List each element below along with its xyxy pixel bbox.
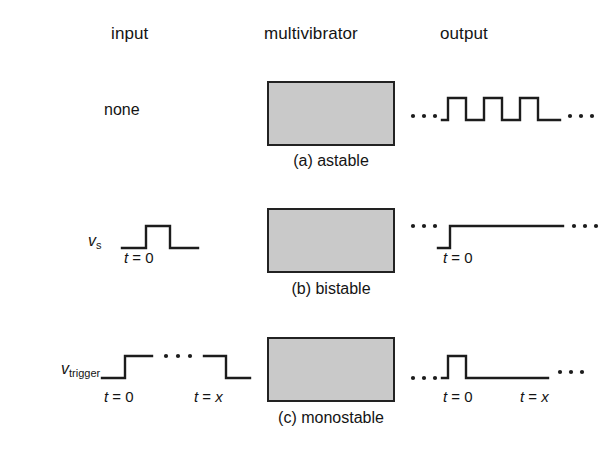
time-label-val: x [541, 388, 549, 405]
time-label-val: 0 [464, 388, 472, 405]
input-label-none: none [104, 101, 140, 119]
input-label-vtrigger-base: v [61, 360, 69, 377]
column-header-output: output [440, 24, 488, 44]
time-label-input-monostable-t0: t = 0 [104, 388, 134, 405]
time-label-eq: = [108, 388, 125, 405]
caption-monostable: (c) monostable [231, 409, 431, 427]
multivibrator-box-astable [267, 81, 395, 146]
waveform-output-astable [408, 86, 608, 131]
time-label-eq: = [128, 249, 145, 266]
caption-astable: (a) astable [231, 152, 431, 170]
time-label-eq: = [447, 388, 464, 405]
time-label-val: 0 [145, 249, 153, 266]
input-label-vs-base: v [88, 232, 96, 249]
time-label-val: x [215, 388, 223, 405]
time-label-output-monostable-t0: t = 0 [443, 388, 473, 405]
time-label-eq: = [198, 388, 215, 405]
time-label-output-bistable-t0: t = 0 [443, 249, 473, 266]
input-label-vs-sub: s [96, 239, 102, 251]
time-label-val: 0 [125, 388, 133, 405]
input-label-vtrigger: vtrigger [61, 360, 100, 378]
time-label-input-monostable-tx: t = x [194, 388, 223, 405]
column-header-multivibrator: multivibrator [264, 24, 358, 44]
waveform-output-bistable [408, 218, 608, 258]
time-label-eq: = [447, 249, 464, 266]
waveform-output-monostable [408, 348, 608, 388]
time-label-output-monostable-tx: t = x [520, 388, 549, 405]
caption-bistable: (b) bistable [231, 280, 431, 298]
column-header-input: input [111, 24, 148, 44]
time-label-eq: = [524, 388, 541, 405]
waveform-input-monostable [100, 348, 260, 388]
time-label-input-bistable-t0: t = 0 [124, 249, 154, 266]
multivibrator-box-bistable [267, 208, 395, 273]
multivibrator-figure: input multivibrator output none (a) asta… [0, 0, 611, 455]
time-label-val: 0 [464, 249, 472, 266]
input-label-vs: vs [88, 232, 102, 250]
input-label-vtrigger-sub: trigger [69, 367, 100, 379]
multivibrator-box-monostable [267, 337, 395, 402]
